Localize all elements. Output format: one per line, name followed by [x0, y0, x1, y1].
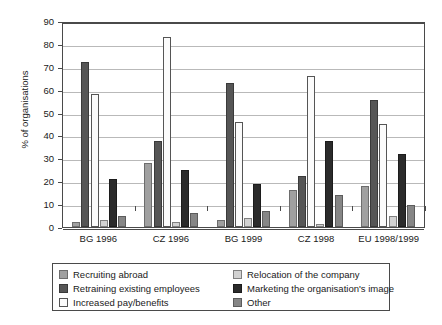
legend-item: Recruiting abroad	[59, 268, 200, 281]
bar	[262, 211, 270, 227]
y-axis-tick-label: 50	[28, 109, 54, 118]
y-axis-tick-label: 80	[28, 40, 54, 49]
legend-item: Increased pay/benefits	[59, 296, 200, 309]
bar	[316, 224, 324, 227]
y-axis-tick-label: 40	[28, 131, 54, 140]
y-axis-tick-mark	[58, 228, 62, 229]
bar	[298, 176, 306, 228]
bar	[379, 124, 387, 227]
legend-item: Relocation of the company	[233, 268, 394, 281]
bar	[389, 216, 397, 227]
bar-group	[280, 23, 352, 227]
legend-swatch	[59, 270, 68, 279]
bar	[244, 218, 252, 227]
x-axis-separator	[62, 206, 63, 211]
bar	[235, 122, 243, 227]
bar-group	[135, 23, 207, 227]
legend-swatch	[233, 298, 242, 307]
bar-group	[207, 23, 279, 227]
bar	[253, 184, 261, 227]
legend-label: Other	[247, 298, 271, 308]
legend-swatch	[59, 298, 68, 307]
legend-item: Retraining existing employees	[59, 282, 200, 295]
bar	[163, 37, 171, 227]
x-axis-category-label: BG 1996	[62, 233, 135, 244]
bar	[289, 190, 297, 227]
x-axis-separator	[425, 206, 426, 211]
bar	[361, 186, 369, 227]
bar	[335, 195, 343, 227]
bar	[181, 170, 189, 227]
legend-label: Marketing the organisation's image	[247, 284, 394, 294]
legend: Recruiting abroadRetraining existing emp…	[52, 263, 390, 311]
bar-group	[352, 23, 424, 227]
legend-label: Relocation of the company	[247, 270, 359, 280]
bar	[398, 154, 406, 227]
y-axis-tick-label: 10	[28, 200, 54, 209]
bar	[100, 220, 108, 227]
bar	[190, 213, 198, 227]
bar-group	[63, 23, 135, 227]
bar	[91, 94, 99, 227]
bar	[81, 62, 89, 227]
legend-item: Marketing the organisation's image	[233, 282, 394, 295]
legend-swatch	[59, 284, 68, 293]
bar	[407, 205, 415, 227]
gridline	[63, 229, 424, 230]
x-axis-category-label: BG 1999	[207, 233, 280, 244]
x-axis-separator	[280, 206, 281, 211]
bar-chart: % of organisations 9080706050403020100 B…	[0, 0, 442, 325]
legend-column-right: Relocation of the companyMarketing the o…	[233, 268, 394, 310]
bar	[325, 141, 333, 227]
bar	[226, 83, 234, 227]
legend-label: Recruiting abroad	[73, 270, 148, 280]
legend-swatch	[233, 270, 242, 279]
plot-area	[62, 22, 425, 228]
x-axis-separator	[135, 206, 136, 211]
x-axis-separator	[352, 206, 353, 211]
y-axis-tick-label: 60	[28, 86, 54, 95]
legend-label: Retraining existing employees	[73, 284, 200, 294]
legend-label: Increased pay/benefits	[73, 298, 169, 308]
bar	[217, 220, 225, 227]
bar	[72, 222, 80, 227]
bar	[118, 216, 126, 227]
bar-groups	[63, 23, 424, 227]
legend-swatch	[233, 284, 242, 293]
y-axis-tick-label: 70	[28, 63, 54, 72]
x-axis-category-label: CZ 1998	[280, 233, 353, 244]
x-axis-category-label: EU 1998/1999	[352, 233, 425, 244]
legend-item: Other	[233, 296, 394, 309]
bar	[109, 179, 117, 227]
bar	[370, 100, 378, 227]
x-axis-category-label: CZ 1996	[135, 233, 208, 244]
bar	[154, 141, 162, 227]
y-axis-tick-label: 30	[28, 154, 54, 163]
y-axis-tick-label: 0	[28, 223, 54, 232]
x-axis-separator	[207, 206, 208, 211]
legend-column-left: Recruiting abroadRetraining existing emp…	[59, 268, 200, 310]
bar	[172, 222, 180, 227]
bar	[144, 163, 152, 227]
y-axis-tick-label: 90	[28, 17, 54, 26]
bar	[307, 76, 315, 227]
x-axis-category-labels: BG 1996CZ 1996BG 1999CZ 1998EU 1998/1999	[62, 233, 425, 244]
y-axis-tick-label: 20	[28, 177, 54, 186]
